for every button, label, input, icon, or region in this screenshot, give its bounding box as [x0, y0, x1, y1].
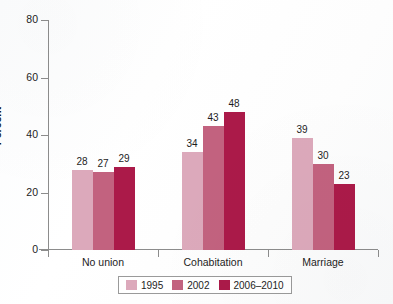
legend-label: 2002: [187, 280, 209, 291]
y-axis-title: Percent: [0, 107, 3, 146]
x-axis-category-label: No union: [48, 256, 158, 268]
legend-item[interactable]: 2006–2010: [219, 280, 284, 291]
bar: [203, 126, 224, 250]
bar: [72, 170, 93, 251]
legend-swatch: [219, 280, 230, 290]
legend-label: 1995: [141, 280, 163, 291]
bar-value-label: 30: [309, 150, 338, 161]
y-axis-tick-label: 0: [12, 243, 38, 255]
y-axis-tick: [41, 20, 48, 21]
legend-swatch: [126, 280, 137, 290]
bar: [334, 184, 355, 250]
bar: [93, 172, 114, 250]
y-axis-tick: [41, 78, 48, 79]
x-axis-tick: [378, 250, 379, 257]
y-axis-tick-label: 60: [12, 71, 38, 83]
y-axis-tick-label: 20: [12, 186, 38, 198]
bar-value-label: 48: [220, 98, 249, 109]
x-axis-category-label: Cohabitation: [158, 256, 268, 268]
y-axis-tick-label: 40: [12, 128, 38, 140]
legend-item[interactable]: 2002: [172, 280, 209, 291]
legend-item[interactable]: 1995: [126, 280, 163, 291]
y-axis-tick-label: 80: [12, 13, 38, 25]
bar-value-label: 23: [330, 170, 359, 181]
bar-value-label: 39: [288, 124, 317, 135]
bar: [182, 152, 203, 250]
y-axis-tick: [41, 135, 48, 136]
chart-legend: 199520022006–2010: [118, 276, 292, 294]
legend-swatch: [172, 280, 183, 290]
bar-value-label: 29: [110, 153, 139, 164]
x-axis-category-label: Marriage: [268, 256, 378, 268]
bar: [114, 167, 135, 250]
bar: [224, 112, 245, 250]
plot-area: 282729344348393023: [48, 20, 378, 250]
y-axis-tick: [41, 250, 48, 251]
chart-figure: 020406080 Percent 282729344348393023 No …: [0, 0, 393, 304]
legend-label: 2006–2010: [234, 280, 284, 291]
y-axis-tick: [41, 193, 48, 194]
